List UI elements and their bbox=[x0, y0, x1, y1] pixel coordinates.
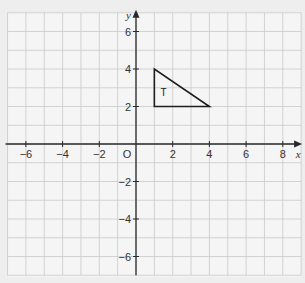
x-axis-label: x bbox=[295, 148, 301, 160]
origin-label: O bbox=[123, 148, 132, 160]
coordinate-grid-chart: −6−4−22468642−2−4−6 T O x y bbox=[0, 0, 305, 283]
triangle-label: T bbox=[160, 87, 166, 98]
x-tick-label: 6 bbox=[243, 148, 249, 160]
y-tick-label: 6 bbox=[125, 26, 131, 38]
x-tick-label: 8 bbox=[280, 148, 286, 160]
y-tick-label: 4 bbox=[125, 63, 131, 75]
x-tick-label: 4 bbox=[206, 148, 212, 160]
x-tick-label: −4 bbox=[56, 148, 69, 160]
y-tick-label: 2 bbox=[125, 101, 131, 113]
y-axis-label: y bbox=[125, 9, 131, 21]
x-tick-label: −6 bbox=[20, 148, 33, 160]
x-tick-label: −2 bbox=[93, 148, 106, 160]
y-tick-label: −2 bbox=[118, 176, 131, 188]
x-tick-label: 2 bbox=[170, 148, 176, 160]
y-tick-label: −4 bbox=[118, 213, 131, 225]
y-tick-label: −6 bbox=[118, 251, 131, 263]
